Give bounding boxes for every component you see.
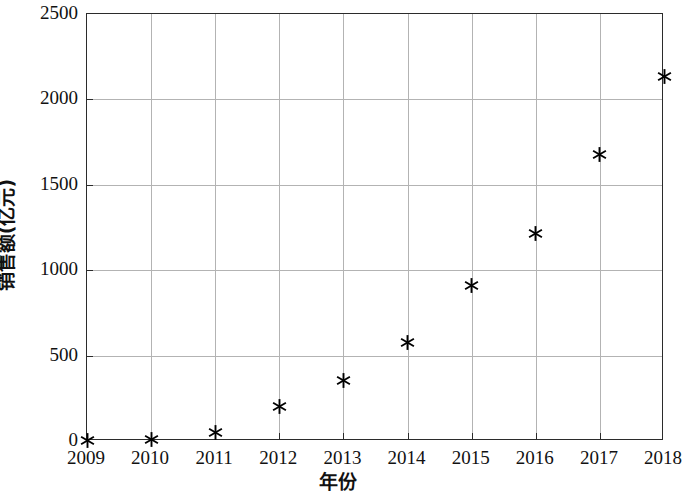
- gridline-vertical: [151, 14, 152, 439]
- tick-mark-y: [87, 99, 93, 100]
- gridline-horizontal: [87, 270, 662, 271]
- x-tick-label: 2010: [115, 448, 185, 467]
- gridline-vertical: [215, 14, 216, 439]
- gridline-vertical: [472, 14, 473, 439]
- tick-mark-x: [343, 433, 344, 439]
- x-tick-label: 2016: [500, 448, 570, 467]
- gridline-horizontal: [87, 99, 662, 100]
- data-point-marker: [463, 277, 480, 294]
- y-tick-label: 500: [0, 345, 78, 364]
- data-point-marker: [591, 146, 608, 163]
- tick-mark-y: [87, 185, 93, 186]
- data-point-marker: [271, 398, 288, 415]
- x-tick-label: 2014: [372, 448, 442, 467]
- y-tick-label: 1000: [0, 259, 78, 278]
- x-tick-label: 2011: [179, 448, 249, 467]
- tick-mark-x: [536, 433, 537, 439]
- y-tick-label: 2000: [0, 88, 78, 107]
- data-point-marker: [207, 424, 224, 441]
- x-tick-label: 2012: [243, 448, 313, 467]
- x-tick-label: 2015: [436, 448, 506, 467]
- x-tick-label: 2018: [628, 448, 686, 467]
- gridline-horizontal: [87, 356, 662, 357]
- tick-mark-x: [600, 433, 601, 439]
- tick-mark-x: [472, 433, 473, 439]
- data-point-marker: [399, 334, 416, 351]
- data-point-marker: [143, 431, 160, 448]
- gridline-vertical: [408, 14, 409, 439]
- data-point-marker: [79, 432, 96, 449]
- gridline-vertical: [600, 14, 601, 439]
- x-tick-label: 2017: [564, 448, 634, 467]
- gridline-horizontal: [87, 185, 662, 186]
- y-tick-label: 2500: [0, 3, 78, 22]
- data-point-marker: [527, 225, 544, 242]
- data-point-marker: [656, 68, 673, 85]
- x-tick-label: 2013: [307, 448, 377, 467]
- gridline-vertical: [279, 14, 280, 439]
- plot-area: [86, 13, 663, 440]
- tick-mark-x: [408, 433, 409, 439]
- data-point-marker: [335, 372, 352, 389]
- x-tick-label: 2009: [51, 448, 121, 467]
- tick-mark-y: [87, 356, 93, 357]
- tick-mark-y: [87, 270, 93, 271]
- tick-mark-x: [279, 433, 280, 439]
- x-axis-title: 年份: [0, 472, 676, 492]
- y-tick-label: 1500: [0, 174, 78, 193]
